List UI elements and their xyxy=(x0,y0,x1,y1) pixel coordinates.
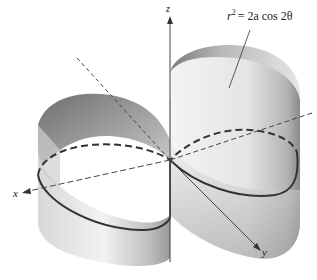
lemniscate-cylinder-diagram: z x y r2= 2a cos 2θ xyxy=(0,0,317,280)
x-axis-arrow-icon xyxy=(22,188,31,194)
equation-label: r2= 2a cos 2θ xyxy=(227,8,293,23)
z-axis-arrow-icon xyxy=(167,16,173,24)
z-axis-label: z xyxy=(165,3,170,14)
y-axis-label: y xyxy=(261,246,267,258)
x-axis-label: x xyxy=(12,187,18,199)
